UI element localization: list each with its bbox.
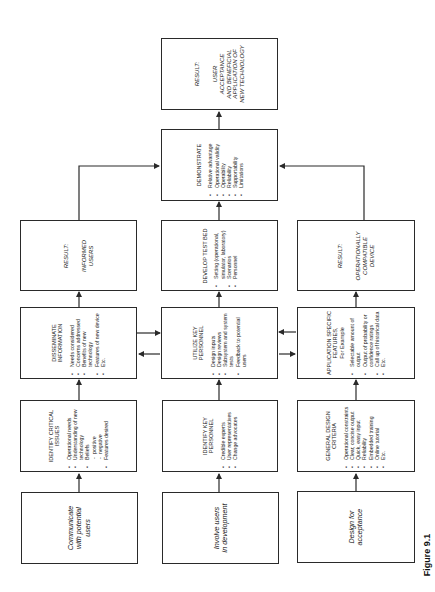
utilize-key-personnel-box: UTILIZE KEY PERSONNEL Design inputs Desi… bbox=[161, 307, 278, 379]
disseminate-title: DISSEMINATE INFORMATION bbox=[51, 311, 64, 375]
design-acceptance-text: Design for acceptance bbox=[348, 495, 365, 559]
final-result-box: RESULT: USER ACCEPTANCE AND BENEFICIAL A… bbox=[161, 38, 278, 110]
result-compatible-device-box: RESULT: OPERATIONALLY COMPATIBLE DEVICE bbox=[297, 220, 415, 291]
figure-caption: Figure 9.1 bbox=[420, 520, 434, 590]
develop-test-bed-box: DEVELOP TEST BED Setting (operational, s… bbox=[161, 220, 278, 291]
demonstrate-box: DEMONSTRATE Relative advantage Operation… bbox=[161, 129, 278, 201]
communicate-text: Communicate with potential users bbox=[67, 496, 92, 560]
utilize-title: UTILIZE KEY PERSONNEL bbox=[192, 311, 205, 375]
disseminate-information-box: DISSEMINATE INFORMATION Needs considered… bbox=[20, 307, 137, 379]
identify-issues-list: Operational needs Understanding of new t… bbox=[66, 404, 109, 468]
identify-critical-issues-box: IDENTIFY CRITICAL ISSUES Operational nee… bbox=[20, 400, 137, 472]
communicate-box: Communicate with potential users bbox=[21, 492, 138, 564]
develop-test-bed-list: Setting (operational, simulator, laborat… bbox=[213, 225, 238, 287]
result-informed-users-box: RESULT: INFORMED USERS bbox=[20, 220, 137, 291]
disseminate-list: Needs considered Concerns addressed Bene… bbox=[69, 311, 106, 375]
result-text: USER ACCEPTANCE AND BENEFICIAL APPLICATI… bbox=[212, 41, 246, 107]
identify-personnel-title: IDENTIFY KEY PERSONNEL bbox=[202, 404, 215, 468]
involve-text: Involve users in development bbox=[212, 496, 229, 560]
result-label: RESULT: bbox=[337, 225, 343, 287]
general-design-list: Operational constraints Clear, concise o… bbox=[343, 404, 386, 468]
application-title: APPLICATION SPECIFIC FEATURES, For Examp… bbox=[326, 311, 345, 375]
utilize-list: Design inputs Design reviews Subsystem a… bbox=[210, 311, 247, 375]
involve-users-box: Involve users in development bbox=[162, 492, 279, 564]
application-list: Selectable amount of output Output of pr… bbox=[349, 311, 386, 375]
demonstrate-list: Relative advantage Operational validity … bbox=[207, 134, 244, 196]
identify-key-personnel-box: IDENTIFY KEY PERSONNEL Credible experts … bbox=[162, 400, 278, 472]
identify-personnel-list: Credible experts User representatives Ch… bbox=[220, 404, 239, 468]
general-design-title: GENERAL DESIGN CRITERIA bbox=[325, 404, 338, 468]
result-label: RESULT: bbox=[63, 225, 69, 287]
identify-issues-title: IDENTIFY CRITICAL ISSUES bbox=[48, 404, 61, 468]
develop-test-bed-title: DEVELOP TEST BED bbox=[201, 225, 207, 287]
result-label: RESULT: bbox=[194, 41, 200, 107]
result-text: OPERATIONALLY COMPATIBLE DEVICE bbox=[355, 225, 375, 287]
result-text: INFORMED USERS bbox=[81, 225, 95, 287]
general-design-criteria-box: GENERAL DESIGN CRITERIA Operational cons… bbox=[297, 400, 415, 472]
demonstrate-title: DEMONSTRATE bbox=[195, 134, 201, 196]
application-features-box: APPLICATION SPECIFIC FEATURES, For Examp… bbox=[297, 307, 415, 379]
design-acceptance-box: Design for acceptance bbox=[297, 491, 415, 563]
